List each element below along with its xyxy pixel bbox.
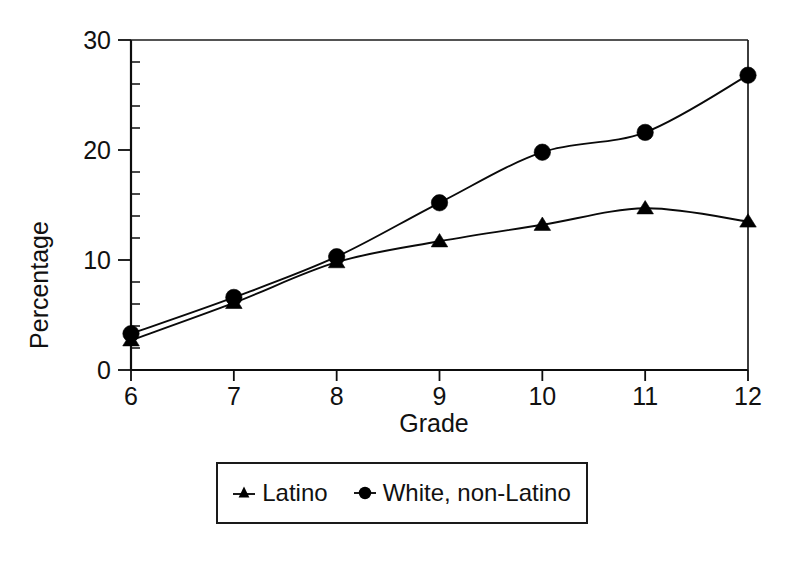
series-latino: [123, 201, 757, 346]
data-series-group: [123, 67, 757, 346]
data-point-triangle: [637, 201, 654, 214]
data-point-circle: [534, 144, 550, 160]
series-line: [131, 208, 748, 340]
x-tick-label: 7: [227, 382, 241, 410]
chart-legend: Latino White, non-Latino: [216, 462, 588, 524]
circle-marker-icon: [354, 482, 376, 504]
x-tick-label: 12: [734, 382, 762, 410]
y-axis-title: Percentage: [25, 221, 53, 349]
legend-label-white-non-latino: White, non-Latino: [383, 481, 571, 505]
x-tick-label: 11: [632, 382, 658, 410]
x-axis-title: Grade: [399, 409, 468, 437]
legend-item-latino: Latino: [233, 481, 327, 505]
x-tick-labels: 6789101112: [124, 382, 762, 410]
axis-ticks: [118, 40, 748, 381]
y-tick-label: 30: [83, 26, 111, 54]
data-point-circle: [637, 124, 653, 140]
legend-label-latino: Latino: [262, 481, 327, 505]
data-point-circle: [123, 326, 139, 342]
x-tick-label: 8: [330, 382, 344, 410]
x-tick-label: 10: [528, 382, 556, 410]
y-tick-labels: 0102030: [83, 26, 111, 384]
data-point-circle: [740, 67, 756, 83]
triangle-marker-icon: [233, 482, 255, 504]
y-tick-label: 10: [83, 246, 111, 274]
y-tick-label: 0: [97, 356, 111, 384]
series-white-non-latino: [123, 67, 756, 342]
data-point-circle: [328, 249, 344, 265]
data-point-circle: [226, 289, 242, 305]
x-tick-label: 9: [433, 382, 447, 410]
legend-item-white-non-latino: White, non-Latino: [354, 481, 571, 505]
chart-page: 0102030 6789101112 Percentage Grade Lati…: [0, 0, 804, 566]
data-point-circle: [431, 195, 447, 211]
x-tick-label: 6: [124, 382, 138, 410]
y-tick-label: 20: [83, 136, 111, 164]
